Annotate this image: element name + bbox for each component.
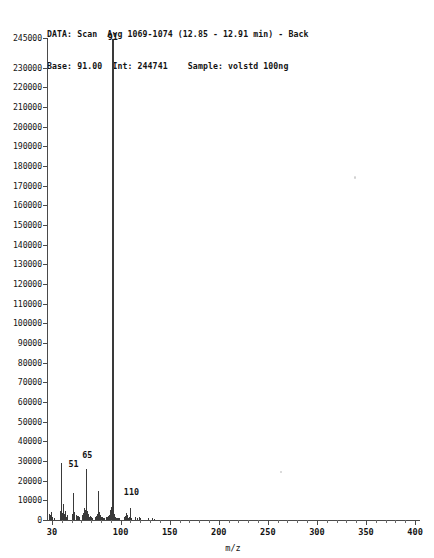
y-axis-tick-label: 60000 — [18, 397, 42, 407]
y-axis-tick-label: 130000 — [13, 259, 42, 269]
spectrum-peak — [52, 517, 53, 520]
y-axis-tick-label: 50000 — [18, 417, 42, 427]
y-axis-tick-row: 0 — [47, 520, 48, 521]
x-axis-minor-tick — [229, 520, 230, 523]
y-axis-tick-label: 160000 — [13, 200, 42, 210]
x-axis-minor-tick — [111, 520, 112, 523]
y-axis-tick-row: 40000 — [47, 441, 48, 442]
x-axis-tick-mark — [317, 520, 318, 525]
spectrum-peak — [148, 518, 149, 520]
y-axis-tick-label: 200000 — [13, 122, 42, 132]
y-axis-tick-mark — [43, 127, 47, 128]
spectrum-peak — [135, 517, 136, 520]
spectrum-peak — [79, 517, 80, 520]
y-axis-tick-mark — [43, 363, 47, 364]
x-axis-minor-tick — [248, 520, 249, 523]
x-axis-minor-tick — [81, 520, 82, 523]
y-axis-tick-row: 70000 — [47, 382, 48, 383]
x-axis-minor-tick — [327, 520, 328, 523]
x-axis-tick-mark — [366, 520, 367, 525]
x-axis-minor-tick — [130, 520, 131, 523]
y-axis-tick-label: 170000 — [13, 181, 42, 191]
y-axis-tick-mark — [43, 38, 47, 39]
peak-label-51: 51 — [68, 459, 78, 469]
x-axis-minor-tick — [189, 520, 190, 523]
x-axis-minor-tick — [346, 520, 347, 523]
y-axis-tick-row: 180000 — [47, 166, 48, 167]
y-axis-tick-row: 110000 — [47, 304, 48, 305]
y-axis-tick-label: 150000 — [13, 220, 42, 230]
spectrum-peak — [119, 518, 120, 520]
y-axis-tick-label: 70000 — [18, 377, 42, 387]
x-axis-minor-tick — [337, 520, 338, 523]
y-axis-tick-label: 40000 — [18, 436, 42, 446]
y-axis-tick-mark — [43, 500, 47, 501]
spectrum-peak — [154, 519, 155, 520]
y-axis-tick-row: 100000 — [47, 323, 48, 324]
x-axis-minor-tick — [356, 520, 357, 523]
spectrum-peak — [61, 463, 62, 520]
peak-label-110: 110 — [124, 487, 139, 497]
y-axis-tick-mark — [43, 461, 47, 462]
y-axis-tick-row: 130000 — [47, 264, 48, 265]
y-axis-tick-mark — [43, 481, 47, 482]
y-axis-tick-mark — [43, 304, 47, 305]
y-axis-tick-mark — [43, 323, 47, 324]
x-axis-minor-tick — [180, 520, 181, 523]
x-axis-tick-label: 300 — [309, 527, 325, 537]
y-axis-tick-mark — [43, 107, 47, 108]
x-axis-tick-label: 100 — [113, 527, 129, 537]
scan-artifact-speck — [354, 176, 356, 179]
y-axis-tick-label: 230000 — [13, 63, 42, 73]
x-axis-minor-tick — [297, 520, 298, 523]
y-axis-line — [47, 38, 48, 520]
y-axis-tick-mark — [43, 225, 47, 226]
x-axis-tick-mark — [121, 520, 122, 525]
y-axis-tick-row: 210000 — [47, 107, 48, 108]
y-axis-tick-mark — [43, 205, 47, 206]
y-axis-tick-label: 180000 — [13, 161, 42, 171]
y-axis-tick-row: 140000 — [47, 245, 48, 246]
x-axis-minor-tick — [278, 520, 279, 523]
x-axis-minor-tick — [160, 520, 161, 523]
y-axis-tick-label: 110000 — [13, 299, 42, 309]
x-axis-minor-tick — [140, 520, 141, 523]
y-axis-tick-label: 80000 — [18, 358, 42, 368]
x-axis-minor-tick — [287, 520, 288, 523]
y-axis-tick-label: 30000 — [18, 456, 42, 466]
x-axis-minor-tick — [307, 520, 308, 523]
y-axis-tick-mark — [43, 382, 47, 383]
scan-artifact-speck-2 — [280, 471, 282, 473]
spectrum-peak — [92, 518, 93, 520]
spectrum-peak — [54, 518, 55, 520]
x-axis-tick-mark — [415, 520, 416, 525]
x-axis-tick-mark — [268, 520, 269, 525]
spectrum-peak — [131, 518, 132, 520]
y-axis-tick-row: 200000 — [47, 127, 48, 128]
y-axis-tick-row: 160000 — [47, 205, 48, 206]
y-axis-tick-row: 150000 — [47, 225, 48, 226]
x-axis-line — [47, 520, 420, 521]
y-axis-tick-mark — [43, 284, 47, 285]
y-axis-tick-row: 120000 — [47, 284, 48, 285]
spectrum-peak — [112, 39, 114, 520]
y-axis-tick-mark — [43, 186, 47, 187]
y-axis-tick-mark — [43, 441, 47, 442]
y-axis-tick-mark — [43, 264, 47, 265]
x-axis-tick-label: 350 — [358, 527, 374, 537]
y-axis-tick-row: 30000 — [47, 461, 48, 462]
y-axis-tick-label: 100000 — [13, 318, 42, 328]
y-axis-tick-mark — [43, 166, 47, 167]
x-axis-title: m/z — [225, 543, 241, 553]
y-axis-tick-label: 245000 — [13, 33, 42, 43]
x-axis-tick-mark — [219, 520, 220, 525]
y-axis-tick-row: 220000 — [47, 87, 48, 88]
x-axis-minor-tick — [238, 520, 239, 523]
x-axis-minor-tick — [209, 520, 210, 523]
y-axis-tick-label: 190000 — [13, 141, 42, 151]
peak-label-65: 65 — [82, 450, 92, 460]
y-axis-tick-label: 20000 — [18, 476, 42, 486]
peak-label-91: 91 — [108, 32, 118, 42]
y-axis-tick-mark — [43, 402, 47, 403]
y-axis-tick-mark — [43, 245, 47, 246]
